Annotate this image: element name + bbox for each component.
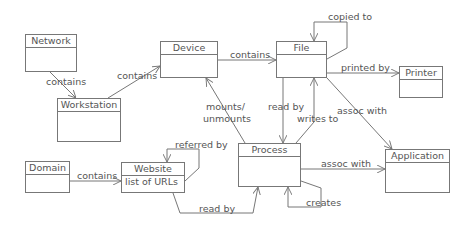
class-name: Device (161, 42, 217, 55)
class-name: Printer (400, 67, 442, 80)
label-file-process-read: read by (268, 101, 304, 112)
class-name: Domain (26, 162, 69, 175)
label-mounts: mounts/ (206, 101, 245, 112)
class-name: Application (386, 150, 449, 163)
label-website-referred: referred by (175, 139, 228, 150)
class-name: Website (122, 163, 184, 176)
class-name: Process (239, 144, 300, 157)
label-file-application: assoc with (337, 105, 387, 116)
label-domain-website: contains (77, 170, 117, 181)
label-file-copied: copied to (328, 11, 372, 22)
label-file-printer: printed by (341, 62, 390, 73)
diagram-canvas: Network Workstation Device File Printer … (0, 0, 474, 227)
class-printer[interactable]: Printer (399, 66, 443, 98)
label-website-process-read: read by (199, 203, 235, 214)
class-website[interactable]: Website list of URLs (121, 162, 185, 193)
label-device-file: contains (230, 49, 270, 60)
class-domain[interactable]: Domain (25, 161, 70, 193)
class-file[interactable]: File (276, 41, 327, 78)
class-attribute: list of URLs (122, 176, 184, 188)
class-name: File (277, 42, 326, 55)
class-application[interactable]: Application (385, 149, 450, 193)
label-unmounts: unmounts (203, 113, 251, 124)
class-network[interactable]: Network (25, 34, 77, 72)
label-process-file-write: writes to (297, 113, 338, 124)
class-workstation[interactable]: Workstation (57, 98, 121, 142)
class-device[interactable]: Device (160, 41, 218, 78)
label-network-workstation: contains (46, 76, 86, 87)
class-name: Network (26, 35, 76, 48)
label-process-application: assoc with (321, 158, 371, 169)
label-workstation-device: contains (117, 70, 157, 81)
class-name: Workstation (58, 99, 120, 112)
class-process[interactable]: Process (238, 143, 301, 187)
label-process-creates: creates (306, 197, 341, 208)
